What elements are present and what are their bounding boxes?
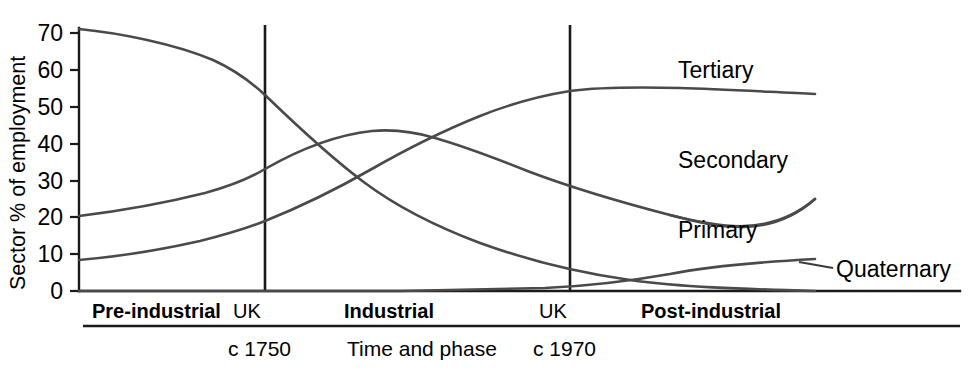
x-axis-title: Time and phase: [347, 337, 497, 360]
chart-svg: Sector % of employment 70 60 50 40 30 20…: [0, 0, 974, 378]
series-label-quaternary: Quaternary: [836, 256, 952, 282]
phase-label-pre-industrial: Pre-industrial: [92, 300, 221, 322]
y-tick-label-0: 0: [50, 278, 63, 304]
series-label-primary: Primary: [678, 217, 758, 243]
marker-label-uk-right: UK: [539, 300, 567, 322]
y-tick-label-60: 60: [37, 57, 63, 83]
y-axis-ticks: [70, 33, 79, 291]
y-tick-label-70: 70: [37, 20, 63, 46]
series-line-secondary: [79, 130, 815, 227]
marker-label-uk-left: UK: [233, 300, 261, 322]
y-tick-label-30: 30: [37, 168, 63, 194]
y-tick-label-20: 20: [37, 204, 63, 230]
year-label-1970: c 1970: [533, 337, 596, 360]
phase-label-industrial: Industrial: [344, 300, 434, 322]
series-label-secondary: Secondary: [678, 147, 788, 173]
y-tick-label-40: 40: [37, 131, 63, 157]
series-label-tertiary: Tertiary: [678, 57, 754, 83]
y-tick-label-50: 50: [37, 94, 63, 120]
chart-figure: Sector % of employment 70 60 50 40 30 20…: [0, 0, 974, 378]
year-label-1750: c 1750: [228, 337, 291, 360]
y-axis-title: Sector % of employment: [6, 56, 30, 290]
quaternary-leader-line: [799, 262, 833, 268]
y-tick-label-10: 10: [37, 241, 63, 267]
phase-label-post-industrial: Post-industrial: [641, 300, 781, 322]
